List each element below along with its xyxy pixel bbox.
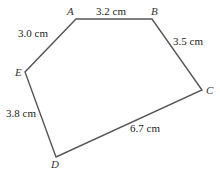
vertex-label-e: E xyxy=(14,66,22,78)
vertex-label-d: D xyxy=(50,158,59,170)
vertex-label-b: B xyxy=(151,5,158,17)
vertex-label-a: A xyxy=(66,5,74,17)
edge-label-bc: 3.5 cm xyxy=(173,35,203,47)
vertex-label-c: C xyxy=(206,84,214,96)
edge-label-de: 3.8 cm xyxy=(6,107,36,119)
edge-label-ab: 3.2 cm xyxy=(96,5,126,17)
edge-label-ea: 3.0 cm xyxy=(18,27,48,39)
edge-label-cd: 6.7 cm xyxy=(130,122,160,134)
pentagon-diagram: A B C D E 3.2 cm 3.5 cm 6.7 cm 3.8 cm 3.… xyxy=(0,0,220,171)
